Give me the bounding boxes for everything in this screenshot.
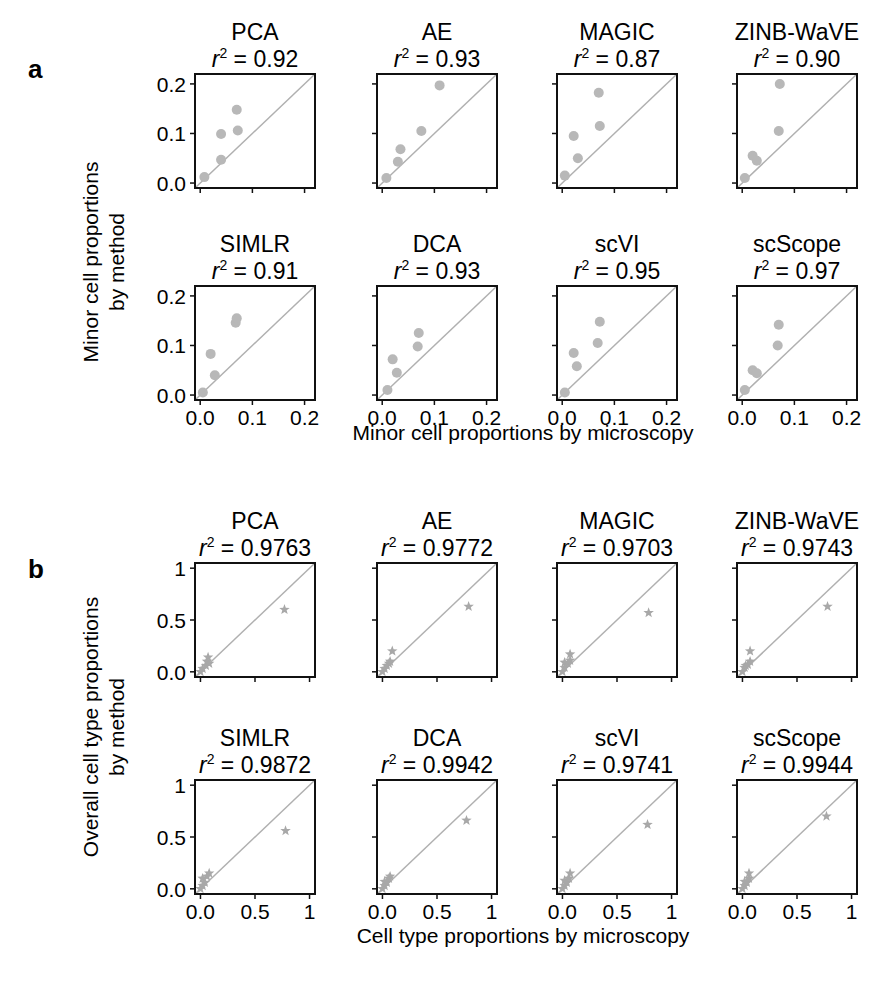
data-point (569, 348, 579, 358)
data-point (216, 129, 226, 139)
data-point (740, 173, 750, 183)
subplot-a-simlr: SIMLRr2 = 0.910.00.00.10.10.20.2 (157, 231, 319, 429)
data-point-star (463, 601, 474, 611)
subplot-b-zinb-wave: ZINB-WaVEr2 = 0.9743 (732, 508, 859, 682)
r-squared-label: r2 = 0.9872 (199, 751, 311, 778)
data-point (388, 354, 398, 364)
x-tick-label: 0.5 (422, 900, 451, 923)
x-tick-label: 0.0 (368, 900, 397, 923)
subplot-title: MAGIC (579, 508, 654, 534)
data-point (573, 153, 583, 163)
subplot-b-scscope: scScoper2 = 0.99440.00.51 (728, 725, 858, 923)
subplot-title: PCA (231, 508, 279, 534)
subplot-title: ZINB-WaVE (735, 508, 859, 534)
y-tick-label: 0.5 (157, 609, 186, 632)
x-tick-label: 1 (486, 900, 498, 923)
r-squared-label: r2 = 0.90 (754, 45, 840, 72)
data-point (752, 156, 762, 166)
x-tick-label: 1 (666, 900, 678, 923)
identity-line (195, 780, 315, 894)
data-point-star (279, 604, 290, 614)
identity-line (737, 286, 857, 400)
subplot-title: scVI (595, 725, 640, 751)
data-point (560, 388, 570, 398)
data-point (773, 340, 783, 350)
y-tick-label: 1 (174, 557, 186, 580)
subplot-b-ae: AEr2 = 0.9772 (372, 508, 497, 682)
data-point (393, 157, 403, 167)
identity-line (557, 74, 677, 188)
data-point (210, 370, 220, 380)
data-point (572, 361, 582, 371)
ylabel-a-line1: Minor cell proportions (79, 162, 102, 363)
x-tick-label: 0.0 (186, 406, 215, 429)
subplot-title: SIMLR (220, 231, 290, 257)
y-tick-label: 0.0 (157, 878, 186, 901)
data-point (381, 173, 391, 183)
data-point (392, 368, 402, 378)
subplot-title: scScope (753, 725, 841, 751)
subplot-a-zinb-wave: ZINB-WaVEr2 = 0.90 (732, 19, 859, 193)
data-point-star (387, 646, 398, 656)
r-squared-label: r2 = 0.9703 (561, 534, 673, 561)
r-squared-label: r2 = 0.95 (574, 257, 660, 284)
r-squared-label: r2 = 0.93 (394, 45, 480, 72)
data-point (774, 126, 784, 136)
data-point (395, 144, 405, 154)
r-squared-label: r2 = 0.91 (212, 257, 298, 284)
ylabel-b: Overall cell type proportions by method (79, 597, 128, 857)
x-tick-label: 0.1 (238, 406, 267, 429)
figure: a b Minor cell proportions by method Ove… (0, 0, 891, 987)
data-point (232, 313, 242, 323)
data-point (775, 79, 785, 89)
data-point (199, 172, 209, 182)
r-squared-label: r2 = 0.87 (574, 45, 660, 72)
subplot-a-pca: PCAr2 = 0.920.00.10.2 (157, 19, 315, 195)
x-tick-label: 0.0 (548, 406, 577, 429)
data-point (413, 341, 423, 351)
r-squared-label: r2 = 0.93 (394, 257, 480, 284)
x-tick-label: 0.1 (780, 406, 809, 429)
x-tick-label: 0.0 (368, 406, 397, 429)
x-tick-label: 0.5 (240, 900, 269, 923)
x-tick-label: 0.0 (728, 406, 757, 429)
y-tick-label: 0.5 (157, 826, 186, 849)
subplot-title: scVI (595, 231, 640, 257)
data-point (560, 171, 570, 181)
y-tick-label: 0.0 (157, 384, 186, 407)
x-tick-label: 0.2 (652, 406, 681, 429)
subplot-b-scvi: scVIr2 = 0.97410.00.51 (548, 725, 678, 923)
x-tick-label: 0.0 (186, 900, 215, 923)
x-tick-label: 0.0 (728, 900, 757, 923)
y-tick-label: 0.1 (157, 122, 186, 145)
data-point (416, 126, 426, 136)
data-point (233, 126, 243, 136)
identity-line (195, 74, 315, 188)
data-point (593, 338, 603, 348)
data-point (774, 320, 784, 330)
x-tick-label: 1 (846, 900, 858, 923)
x-tick-label: 0.1 (420, 406, 449, 429)
data-point-star (642, 819, 653, 829)
data-point (595, 317, 605, 327)
y-tick-label: 0.0 (157, 661, 186, 684)
identity-line (557, 780, 677, 894)
ylabel-b-line1: Overall cell type proportions (79, 597, 102, 857)
ylabel-a-line2: by method (105, 213, 128, 311)
r-squared-label: r2 = 0.92 (212, 45, 298, 72)
data-point (752, 368, 762, 378)
y-tick-label: 0.1 (157, 334, 186, 357)
data-point (435, 80, 445, 90)
subplot-b-pca: PCAr2 = 0.97630.00.51 (157, 508, 315, 684)
subplot-a-dca: DCAr2 = 0.930.00.10.2 (368, 231, 502, 429)
caption-fragment (0, 960, 891, 987)
subplot-a-magic: MAGICr2 = 0.87 (552, 19, 677, 193)
x-tick-label: 0.2 (290, 406, 319, 429)
x-tick-label: 0.2 (832, 406, 861, 429)
data-point-star (643, 607, 654, 617)
data-point-star (822, 601, 833, 611)
panel-label-b: b (28, 554, 44, 584)
r-squared-label: r2 = 0.9741 (561, 751, 673, 778)
data-point-star (280, 825, 291, 835)
r-squared-label: r2 = 0.9942 (381, 751, 493, 778)
